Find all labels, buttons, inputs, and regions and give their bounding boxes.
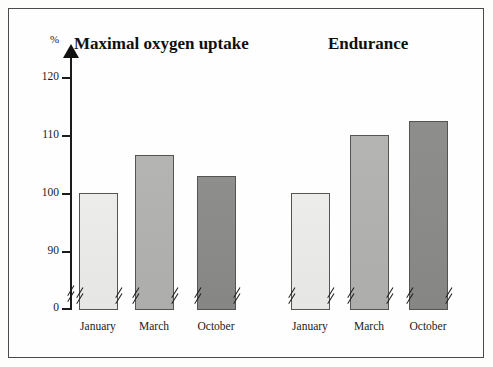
y-tick-label-100: 100 (25, 186, 59, 198)
bar-endurance-march (350, 135, 389, 310)
y-tick-label-110: 110 (25, 128, 59, 140)
group-title-maximal-oxygen-uptake: Maximal oxygen uptake (74, 34, 249, 54)
y-tick-label-0: 0 (25, 301, 59, 313)
figure-container: Maximal oxygen uptake Endurance % 120 11… (0, 0, 493, 367)
bar-break-mark (112, 287, 126, 303)
y-tick-label-90: 90 (25, 244, 59, 256)
bar-break-mark (285, 287, 299, 303)
bar-break-mark (442, 287, 456, 303)
bar-break-mark (344, 287, 358, 303)
bar-break-mark (383, 287, 397, 303)
y-axis-unit-label: % (50, 33, 59, 45)
x-label-endurance-october: October (383, 320, 473, 332)
plot-area: Maximal oxygen uptake Endurance % 120 11… (0, 0, 493, 367)
y-tick-100 (62, 193, 71, 195)
y-tick-110 (62, 135, 71, 137)
y-tick-0 (62, 308, 71, 310)
bar-break-mark (230, 287, 244, 303)
bar-break-mark (129, 287, 143, 303)
y-axis-line (70, 56, 72, 310)
bar-break-mark (324, 287, 338, 303)
y-axis-arrow-icon (63, 44, 79, 58)
bar-break-mark (168, 287, 182, 303)
y-tick-120 (62, 77, 71, 79)
y-tick-90 (62, 251, 71, 253)
bar-break-mark (403, 287, 417, 303)
x-label-maximal-oxygen-uptake-october: October (171, 320, 261, 332)
bar-endurance-october (409, 121, 448, 310)
bar-break-mark (73, 287, 87, 303)
group-title-endurance: Endurance (328, 34, 408, 54)
y-tick-label-120: 120 (25, 70, 59, 82)
bar-break-mark (191, 287, 205, 303)
